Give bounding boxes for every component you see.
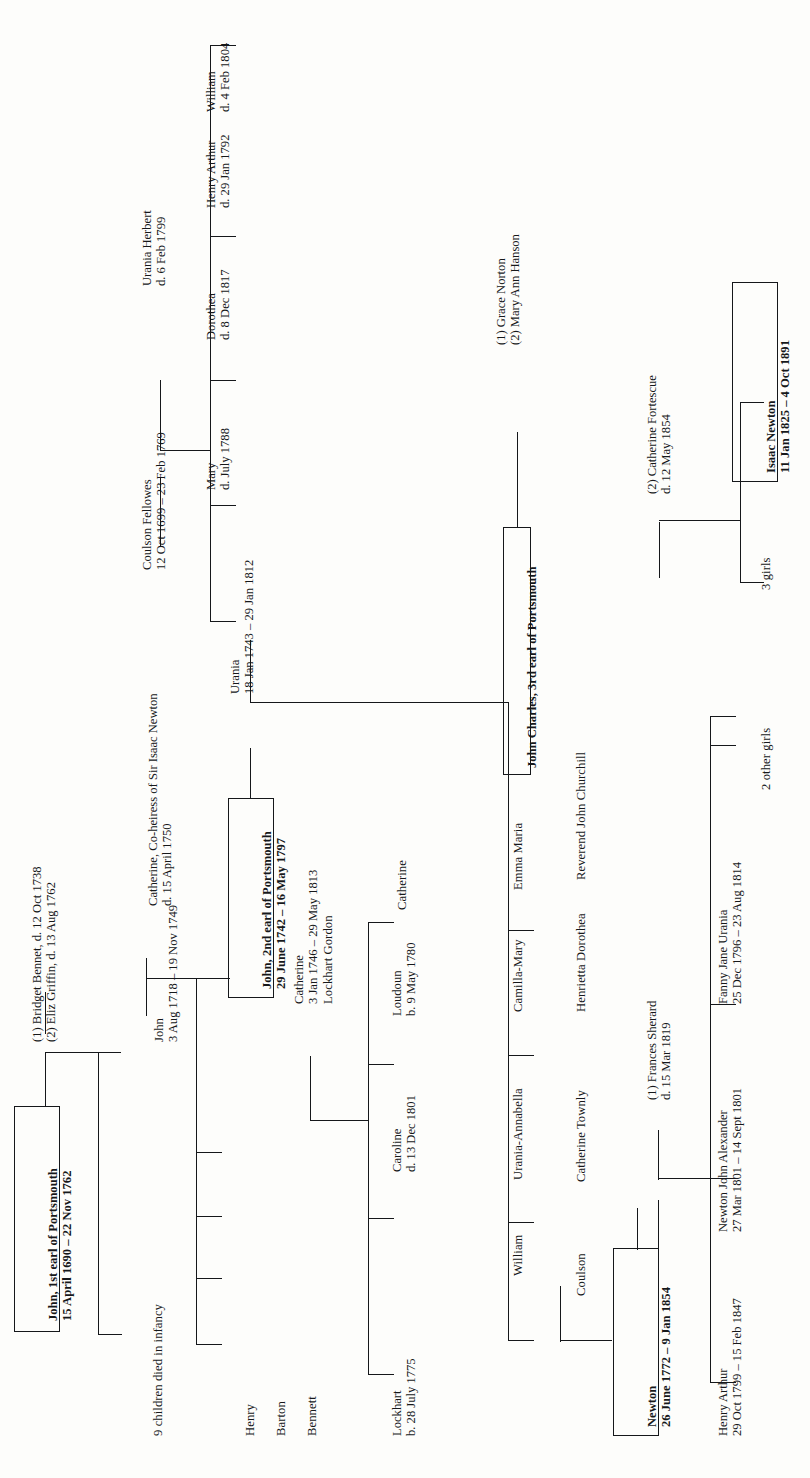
person-john-1718: John 3 Aug 1718 – 19 Nov 1749 bbox=[152, 905, 180, 1042]
person-catherine-coheiress-of-sir-isaac-newton: Catherine, Co-heiress of Sir Isaac Newto… bbox=[146, 693, 174, 906]
connector-line bbox=[710, 1178, 736, 1179]
person-caroline-1801: Caroline d. 13 Dec 1801 bbox=[390, 1095, 418, 1172]
person-fanny-jane-urania: Fanny Jane Urania 25 Dec 1796 – 23 Aug 1… bbox=[716, 862, 744, 1004]
person-box-newton-1772: Newton 26 June 1772 – 9 Jan 1854 bbox=[613, 1248, 659, 1436]
person-john-1st-earl: John, 1st earl of Portsmouth 15 April 16… bbox=[46, 1168, 74, 1321]
connector-line bbox=[250, 748, 251, 798]
connector-line bbox=[146, 978, 230, 979]
connector-line bbox=[508, 1222, 534, 1223]
connector-line bbox=[508, 1055, 534, 1056]
person-william-wallop: William bbox=[512, 1235, 525, 1276]
connector-line bbox=[560, 1340, 612, 1341]
connector-line bbox=[740, 582, 764, 583]
person-reverend-john-churchill: Reverend John Churchill bbox=[575, 752, 588, 880]
connector-line bbox=[368, 1374, 394, 1375]
connector-line bbox=[710, 745, 736, 746]
person-isaac-newton-1825: Isaac Newton 11 Jan 1825 – 4 Oct 1891 bbox=[764, 340, 792, 473]
connector-line bbox=[740, 402, 764, 403]
connector-line bbox=[310, 1120, 368, 1121]
person-box-john-1st-earl: John, 1st earl of Portsmouth 15 April 16… bbox=[14, 1106, 60, 1332]
person-henry: Henry bbox=[244, 1404, 257, 1436]
connector-line bbox=[659, 520, 741, 521]
person-emma-maria: Emma Maria bbox=[512, 823, 525, 890]
connector-line bbox=[45, 1052, 46, 1106]
spouse-catherine-fortescue: (2) Catherine Fortescue d. 12 May 1854 bbox=[645, 375, 673, 494]
connector-line bbox=[658, 1130, 659, 1180]
connector-line bbox=[517, 432, 518, 528]
person-urania-herbert: Urania Herbert d. 6 Feb 1799 bbox=[140, 210, 168, 286]
connector-line bbox=[98, 1052, 99, 1334]
person-lockhart-1775: Lockhart b. 28 July 1775 bbox=[390, 1358, 418, 1436]
connector-line bbox=[710, 1004, 736, 1005]
connector-line bbox=[45, 992, 46, 1034]
connector-line bbox=[710, 716, 711, 1382]
connector-line bbox=[368, 922, 369, 1374]
connector-line bbox=[658, 1178, 710, 1179]
person-john-charles-3rd-earl: John Charles, 3rd earl of Portsmouth bbox=[525, 567, 539, 769]
connector-line bbox=[560, 1286, 561, 1342]
person-henry-arthur-1792: Henry Arthur d. 29 Jan 1792 bbox=[204, 135, 232, 208]
person-bennett: Bennett bbox=[306, 1396, 319, 1436]
connector-line bbox=[45, 1052, 121, 1053]
person-mary-1788: Mary d. July 1788 bbox=[204, 428, 232, 490]
connector-line bbox=[658, 1200, 659, 1250]
person-barton: Barton bbox=[275, 1401, 288, 1436]
person-dorothea-1817: Dorothea d. 8 Dec 1817 bbox=[204, 269, 232, 340]
person-loudoun-1780: Loudoun b. 9 May 1780 bbox=[390, 943, 418, 1016]
person-urania-annabella: Urania-Annabella bbox=[512, 1088, 525, 1180]
person-box-isaac-newton-1825: Isaac Newton 11 Jan 1825 – 4 Oct 1891 bbox=[732, 282, 778, 482]
spouses-of-john-charles-3rd-earl: (1) Grace Norton (2) Mary Ann Hanson bbox=[494, 234, 522, 345]
connector-line bbox=[250, 702, 508, 703]
connector-line bbox=[368, 1064, 394, 1065]
note-nine-children-died-in-infancy: 9 children died in infancy bbox=[152, 1304, 165, 1436]
connector-line bbox=[310, 1056, 311, 1120]
person-coulson-fellowes: Coulson Fellowes 12 Oct 1699 – 23 Feb 17… bbox=[140, 432, 168, 570]
connector-line bbox=[210, 621, 236, 622]
connector-line bbox=[710, 716, 736, 717]
person-henry-arthur-1799: Henry Arthur 29 Oct 1799 – 15 Feb 1847 bbox=[716, 1298, 744, 1436]
person-john-2nd-earl: John, 2nd earl of Portsmouth 29 June 174… bbox=[260, 831, 288, 989]
connector-line bbox=[508, 1340, 534, 1341]
family-tree-chart: John, 1st earl of Portsmouth 15 April 16… bbox=[0, 0, 810, 1478]
note-two-other-girls: 2 other girls bbox=[760, 728, 773, 790]
spouse-frances-sherard: (1) Frances Sherard d. 15 Mar 1819 bbox=[645, 1001, 673, 1100]
connector-line bbox=[659, 522, 660, 578]
person-newton-1772: Newton 26 June 1772 – 9 Jan 1854 bbox=[645, 1287, 673, 1427]
connector-line bbox=[210, 236, 236, 237]
connector-line bbox=[146, 958, 147, 1016]
connector-line bbox=[98, 1334, 122, 1335]
person-catherine-gordon: Catherine bbox=[396, 860, 409, 910]
connector-line bbox=[368, 1218, 394, 1219]
person-newton-john-alexander: Newton John Alexander 27 Mar 1801 – 14 S… bbox=[716, 1088, 744, 1232]
person-catherine-1746: Catherine 3 Jan 1746 – 29 May 1813 bbox=[292, 870, 320, 1004]
connector-line bbox=[250, 640, 251, 702]
connector-line bbox=[196, 1278, 222, 1279]
connector-line bbox=[210, 505, 236, 506]
note-three-girls: 3 girls bbox=[760, 557, 773, 590]
person-coulson: Coulson bbox=[575, 1253, 588, 1296]
person-catherine-townly: Catherine Townly bbox=[575, 1090, 588, 1182]
connector-line bbox=[508, 930, 534, 931]
connector-line bbox=[196, 1216, 222, 1217]
person-urania-1743: Urania 18 Jan 1743 – 29 Jan 1812 bbox=[228, 560, 256, 694]
connector-line bbox=[740, 402, 741, 582]
connector-line bbox=[637, 1208, 638, 1250]
connector-line bbox=[160, 478, 161, 546]
connector-line bbox=[210, 45, 211, 621]
connector-line bbox=[196, 1344, 222, 1345]
connector-line bbox=[508, 702, 509, 1340]
person-camilla-mary: Camilla-Mary bbox=[512, 939, 525, 1012]
connector-line bbox=[210, 45, 236, 46]
connector-line bbox=[710, 1382, 736, 1383]
connector-line bbox=[368, 922, 394, 923]
person-box-john-2nd-earl: John, 2nd earl of Portsmouth 29 June 174… bbox=[228, 798, 274, 998]
person-lockhart-gordon: Lockhart Gordon bbox=[322, 915, 335, 1004]
connector-line bbox=[196, 978, 197, 1344]
person-henrietta-dorothea: Henrietta Dorothea bbox=[575, 913, 588, 1012]
connector-line bbox=[160, 450, 210, 451]
person-william-1804: William d. 4 Feb 1804 bbox=[204, 43, 232, 112]
connector-line bbox=[210, 380, 236, 381]
connector-line bbox=[196, 1152, 222, 1153]
connector-line bbox=[160, 380, 161, 450]
